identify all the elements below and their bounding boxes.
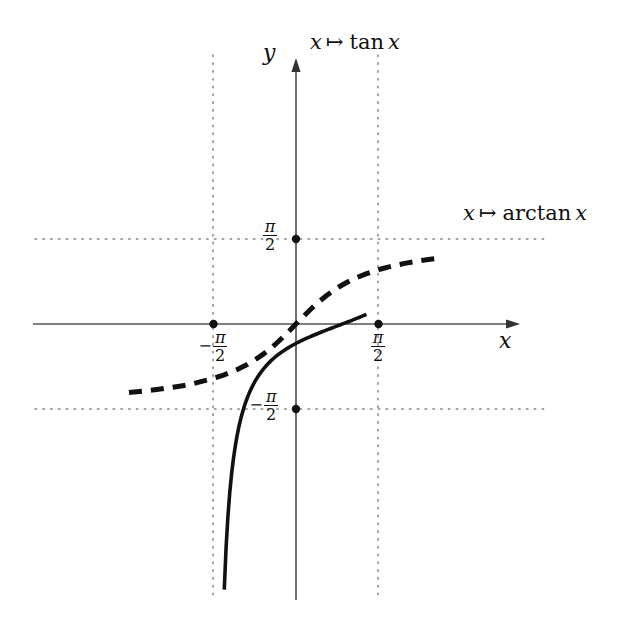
y-tick-label-pos-half-pi: π 2: [252, 219, 288, 254]
x-tick-pos-numerator: π: [371, 330, 386, 347]
arctan-curve-main: [129, 258, 439, 392]
y-tick-neg-denominator: 2: [266, 406, 276, 423]
x-tick-pos-denominator: 2: [373, 347, 383, 364]
tan-label-mapsto-icon: ↦: [322, 30, 348, 54]
arctan-label-argument: x: [571, 201, 587, 225]
tan-arctan-figure: y x x↦tanx x↦arctanx − π 2 π 2 π 2 − π: [0, 0, 623, 623]
y-tick-pos-fraction: π 2: [263, 219, 278, 254]
tan-label-argument: x: [384, 30, 400, 54]
y-axis-label: y: [263, 42, 275, 64]
y-tick-label-neg-half-pi: − π 2: [236, 389, 292, 424]
tan-curve-label: x↦tanx: [310, 32, 400, 53]
arctan-label-mapsto-icon: ↦: [475, 201, 501, 225]
x-axis-label: x: [499, 330, 511, 352]
arctan-label-variable: x: [463, 201, 475, 225]
x-tick-neg-fraction: π 2: [213, 330, 228, 365]
x-tick-neg-denominator: 2: [215, 347, 225, 364]
tan-label-variable: x: [310, 30, 322, 54]
x-tick-neg-sign: −: [199, 338, 212, 354]
x-tick-pos-fraction: π 2: [371, 330, 386, 365]
x-tick-neg-numerator: π: [213, 330, 228, 347]
tan-label-function: tan: [347, 30, 383, 54]
y-tick-pos-denominator: 2: [265, 236, 275, 253]
y-axis-arrowhead: [291, 58, 300, 72]
point-neg-half-pi-y: [292, 405, 300, 413]
plot-canvas: [0, 0, 623, 623]
y-tick-pos-numerator: π: [263, 219, 278, 236]
y-tick-neg-sign: −: [250, 397, 263, 413]
arctan-curve-label: x↦arctanx: [463, 203, 587, 224]
point-neg-half-pi-x: [209, 320, 217, 328]
x-tick-label-neg-half-pi: − π 2: [185, 330, 241, 365]
y-tick-neg-fraction: π 2: [264, 389, 279, 424]
y-tick-neg-numerator: π: [264, 389, 279, 406]
x-tick-label-pos-half-pi: π 2: [360, 330, 396, 365]
arctan-label-function: arctan: [500, 201, 571, 225]
point-pos-half-pi-y: [292, 235, 300, 243]
point-pos-half-pi-x: [374, 320, 382, 328]
